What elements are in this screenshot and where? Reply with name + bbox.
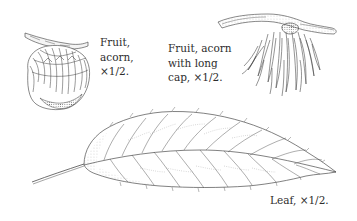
caption-acorn-line-3: ×1/2.	[100, 64, 134, 79]
acorn-long-cap-drawing	[218, 14, 336, 96]
caption-long-cap-line-3: cap, ×1/2.	[168, 70, 232, 85]
caption-acorn-line-2: acorn,	[100, 50, 134, 65]
caption-leaf-line-1: Leaf, ×1/2.	[270, 193, 329, 208]
caption-acorn-line-1: Fruit,	[100, 35, 134, 50]
leaf-drawing	[32, 107, 336, 192]
caption-long-cap-line-1: Fruit, acorn	[168, 41, 232, 56]
caption-acorn: Fruit, acorn, ×1/2.	[100, 35, 134, 79]
botanical-illustration	[0, 0, 357, 221]
botanical-plate: Fruit, acorn, ×1/2. Fruit, acorn with lo…	[0, 0, 357, 221]
acorn-drawing	[25, 33, 90, 110]
caption-leaf: Leaf, ×1/2.	[270, 193, 329, 208]
caption-long-cap-line-2: with long	[168, 56, 232, 71]
caption-acorn-long-cap: Fruit, acorn with long cap, ×1/2.	[168, 41, 232, 85]
